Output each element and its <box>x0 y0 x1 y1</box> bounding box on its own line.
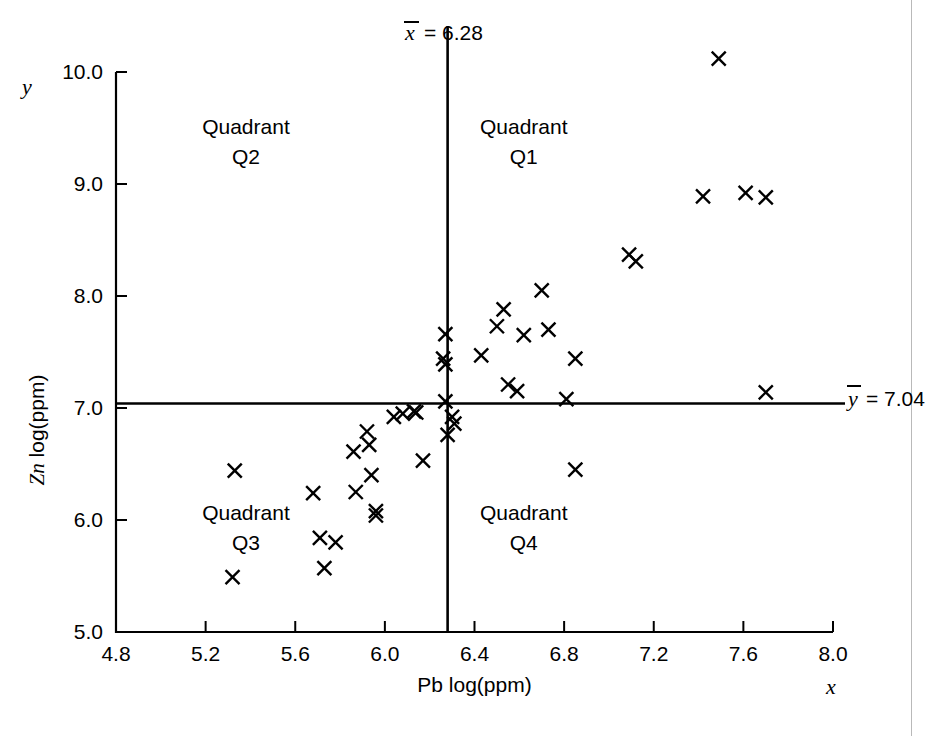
data-point <box>228 464 242 478</box>
y-tick-label-group: 5.06.07.08.09.010.0 <box>62 60 103 643</box>
data-point <box>568 463 582 477</box>
data-point <box>501 377 515 391</box>
data-point <box>474 348 488 362</box>
data-point <box>490 319 504 333</box>
data-point <box>438 327 452 341</box>
y-tick-label: 8.0 <box>74 284 103 307</box>
quadrant-label-line2: Q3 <box>232 531 260 554</box>
y-tick-label: 9.0 <box>74 172 103 195</box>
quadrant-label-line1: Quadrant <box>480 115 568 138</box>
axis-spine <box>116 72 833 632</box>
data-point <box>517 328 531 342</box>
y-axis-title-variable: Zn <box>25 463 49 485</box>
x-tick-label: 6.4 <box>460 642 490 665</box>
x-axis-variable-symbol: x <box>825 674 836 699</box>
y-axis-title-group: Zn log(ppm) <box>25 375 49 486</box>
y-tick-label: 6.0 <box>74 508 103 531</box>
y-axis-title: Zn log(ppm) <box>25 375 49 486</box>
data-point <box>510 384 524 398</box>
y-axis-title-units: log(ppm) <box>25 375 48 464</box>
y-tick-label: 10.0 <box>62 60 103 83</box>
y-axis-variable-symbol: y <box>20 74 32 99</box>
axes-group <box>116 72 833 632</box>
data-point <box>329 535 343 549</box>
data-point <box>364 468 378 482</box>
data-point <box>226 570 240 584</box>
plot-svg: 4.85.25.66.06.46.87.27.68.0 5.06.07.08.0… <box>0 0 930 736</box>
data-point <box>349 485 363 499</box>
y-tick-group <box>116 72 127 632</box>
x-mean-symbol: x <box>404 20 415 45</box>
y-tick-label: 7.0 <box>74 396 103 419</box>
data-point <box>317 561 331 575</box>
data-point <box>497 302 511 316</box>
quadrant-label-line2: Q1 <box>510 145 538 168</box>
data-point <box>347 445 361 459</box>
quadrant-label-line1: Quadrant <box>480 501 568 524</box>
x-tick-label: 7.2 <box>639 642 668 665</box>
data-point <box>313 531 327 545</box>
x-tick-label: 8.0 <box>818 642 847 665</box>
y-mean-label-group: y = 7.04 <box>846 386 925 411</box>
y-tick-label: 5.0 <box>74 620 103 643</box>
x-tick-label: 5.2 <box>191 642 220 665</box>
x-tick-label: 7.6 <box>729 642 758 665</box>
data-point <box>568 352 582 366</box>
figure-page: 4.85.25.66.06.46.87.27.68.0 5.06.07.08.0… <box>0 0 930 736</box>
scatter-plot: 4.85.25.66.06.46.87.27.68.0 5.06.07.08.0… <box>0 0 930 736</box>
data-point <box>712 52 726 66</box>
x-mean-label-group: x = 6.28 <box>404 20 483 45</box>
data-point <box>739 186 753 200</box>
data-point <box>362 438 376 452</box>
quadrant-label-group: QuadrantQ1QuadrantQ2QuadrantQ3QuadrantQ4 <box>202 115 568 554</box>
data-point <box>759 190 773 204</box>
x-tick-label: 4.8 <box>101 642 130 665</box>
quadrant-label-q3: QuadrantQ3 <box>202 501 290 554</box>
data-point <box>416 454 430 468</box>
quadrant-label-line2: Q4 <box>510 531 538 554</box>
x-tick-group <box>116 621 833 632</box>
data-point <box>629 254 643 268</box>
x-tick-label-group: 4.85.25.66.06.46.87.27.68.0 <box>101 642 847 665</box>
quadrant-label-q4: QuadrantQ4 <box>480 501 568 554</box>
y-mean-text: = 7.04 <box>866 387 925 410</box>
data-point <box>759 385 773 399</box>
data-point <box>438 394 452 408</box>
quadrant-label-q2: QuadrantQ2 <box>202 115 290 168</box>
data-point <box>306 486 320 500</box>
quadrant-label-q1: QuadrantQ1 <box>480 115 568 168</box>
data-point <box>535 283 549 297</box>
y-mean-symbol: y <box>846 386 858 411</box>
data-point <box>696 189 710 203</box>
data-point <box>541 323 555 337</box>
x-axis-title: Pb log(ppm) <box>417 673 531 696</box>
x-tick-label: 6.8 <box>550 642 579 665</box>
quadrant-label-line1: Quadrant <box>202 115 290 138</box>
data-point <box>360 425 374 439</box>
x-mean-text: = 6.28 <box>424 21 483 44</box>
x-tick-label: 6.0 <box>370 642 399 665</box>
x-tick-label: 5.6 <box>281 642 310 665</box>
quadrant-label-line1: Quadrant <box>202 501 290 524</box>
quadrant-label-line2: Q2 <box>232 145 260 168</box>
